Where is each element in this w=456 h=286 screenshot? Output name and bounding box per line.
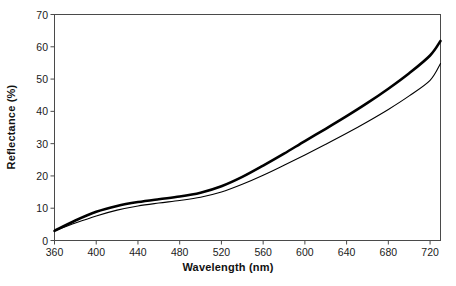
x-tick-label: 560 — [254, 247, 272, 258]
plot-canvas — [0, 0, 456, 286]
y-axis-title: Reflectance (%) — [5, 47, 17, 207]
y-tick-label: 10 — [22, 203, 48, 214]
x-tick-label: 680 — [380, 247, 398, 258]
x-tick-label: 640 — [338, 247, 356, 258]
y-tick-label: 20 — [22, 171, 48, 182]
y-tick-label: 30 — [22, 138, 48, 149]
x-tick-label: 720 — [421, 247, 439, 258]
x-tick-label: 480 — [171, 247, 189, 258]
x-tick-label: 400 — [87, 247, 105, 258]
x-tick-label: 600 — [296, 247, 314, 258]
y-tick-label: 40 — [22, 106, 48, 117]
y-tick-label: 50 — [22, 74, 48, 85]
x-axis-title: Wavelength (nm) — [0, 261, 456, 273]
x-tick-label: 520 — [213, 247, 231, 258]
reflectance-spectrum-chart: 010203040506070 360400440480520560600640… — [0, 0, 456, 286]
y-axis-ticks — [51, 15, 55, 241]
y-tick-label: 60 — [22, 42, 48, 53]
y-tick-label: 0 — [22, 235, 48, 246]
y-tick-label: 70 — [22, 9, 48, 20]
x-tick-label: 440 — [129, 247, 147, 258]
x-axis-ticks — [55, 241, 431, 245]
x-tick-label: 360 — [46, 247, 64, 258]
